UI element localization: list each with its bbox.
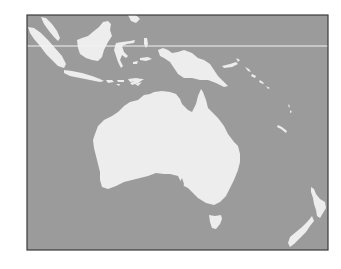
- map-region-label: Oceania: [0, 0, 4, 1]
- oceania-map: [0, 0, 341, 269]
